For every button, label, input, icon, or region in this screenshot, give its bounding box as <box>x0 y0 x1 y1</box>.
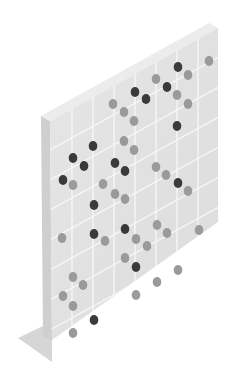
light-stone <box>132 234 141 244</box>
light-stone <box>153 277 162 287</box>
dark-stone <box>142 94 151 104</box>
light-stone <box>69 301 78 311</box>
dark-stone <box>111 158 120 168</box>
light-stone <box>132 290 141 300</box>
dark-stone <box>89 141 98 151</box>
light-stone <box>162 170 171 180</box>
light-stone <box>109 99 118 109</box>
pegboard-illustration <box>0 0 235 387</box>
dark-stone <box>80 161 89 171</box>
pegboard-canvas <box>0 0 235 387</box>
light-stone <box>111 189 120 199</box>
dark-stone <box>173 121 182 131</box>
light-stone <box>59 291 68 301</box>
light-stone <box>58 233 67 243</box>
light-stone <box>121 253 130 263</box>
light-stone <box>195 225 204 235</box>
light-stone <box>184 70 193 80</box>
dark-stone <box>90 315 99 325</box>
dark-stone <box>174 178 183 188</box>
dark-stone <box>121 224 130 234</box>
light-stone <box>101 236 110 246</box>
dark-stone <box>90 200 99 210</box>
light-stone <box>69 180 78 190</box>
light-stone <box>99 179 108 189</box>
dark-stone <box>59 175 68 185</box>
light-stone <box>205 56 214 66</box>
light-stone <box>152 74 161 84</box>
dark-stone <box>69 153 78 163</box>
light-stone <box>163 228 172 238</box>
light-stone <box>120 136 129 146</box>
light-stone <box>173 90 182 100</box>
light-stone <box>130 116 139 126</box>
light-stone <box>121 194 130 204</box>
dark-stone <box>132 262 141 272</box>
light-stone <box>184 186 193 196</box>
light-stone <box>153 220 162 230</box>
light-stone <box>152 162 161 172</box>
dark-stone <box>174 62 183 72</box>
light-stone <box>130 145 139 155</box>
light-stone <box>79 280 88 290</box>
light-stone <box>174 265 183 275</box>
dark-stone <box>90 229 99 239</box>
dark-stone <box>131 87 140 97</box>
dark-stone <box>121 166 130 176</box>
light-stone <box>69 272 78 282</box>
light-stone <box>69 328 78 338</box>
light-stone <box>184 99 193 109</box>
light-stone <box>120 107 129 117</box>
light-stone <box>143 241 152 251</box>
dark-stone <box>163 82 172 92</box>
